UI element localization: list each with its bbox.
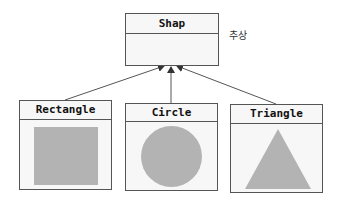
class-name-shap: Shap bbox=[126, 14, 218, 34]
class-box-rectangle[interactable]: Rectangle bbox=[19, 100, 112, 190]
class-box-shap[interactable]: Shap bbox=[125, 13, 219, 66]
class-name-circle: Circle bbox=[126, 104, 217, 122]
class-box-triangle[interactable]: Triangle bbox=[230, 104, 323, 193]
circle-shape-icon bbox=[141, 126, 202, 187]
class-box-circle[interactable]: Circle bbox=[125, 103, 218, 191]
class-name-rectangle: Rectangle bbox=[20, 101, 111, 120]
class-name-triangle: Triangle bbox=[231, 105, 322, 124]
triangle-shape-icon bbox=[243, 129, 313, 189]
abstract-annotation: 추상 bbox=[229, 27, 247, 42]
rectangle-shape-icon bbox=[34, 127, 98, 185]
